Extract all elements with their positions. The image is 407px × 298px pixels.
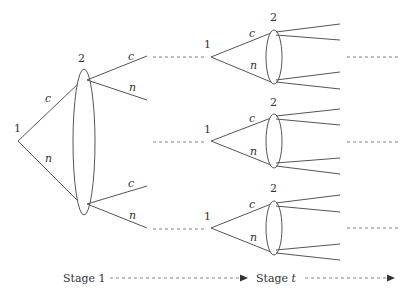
svg-text:2: 2 (270, 96, 277, 109)
timeline: Stage 1 Stage t (63, 272, 395, 285)
svg-text:2: 2 (270, 182, 277, 195)
svg-text:n: n (250, 231, 257, 244)
action-n-label: n (129, 209, 136, 222)
svg-text:c: c (249, 198, 255, 211)
action-n-label: n (45, 152, 52, 165)
action-c-label: c (45, 92, 51, 105)
stage-t-subtree-2: 1 2 c n (204, 96, 400, 174)
action-c-label: c (128, 50, 134, 63)
svg-text:c: c (249, 27, 255, 40)
stage-1-label: Stage 1 (63, 272, 106, 285)
player1-label: 1 (14, 122, 21, 135)
svg-text:1: 1 (204, 123, 211, 136)
svg-text:1: 1 (204, 210, 211, 223)
game-tree-diagram: 1 2 c n c n c n 1 2 c n 1 2 c (0, 0, 407, 298)
svg-text:n: n (250, 59, 257, 72)
stage-t-subtree-3: 1 2 c n (204, 182, 400, 260)
stage-t-subtree-1: 1 2 c n (204, 11, 400, 89)
svg-text:1: 1 (204, 38, 211, 51)
svg-text:n: n (250, 145, 257, 158)
arrow-icon (387, 275, 395, 282)
action-n-label: n (129, 81, 136, 94)
svg-text:c: c (249, 112, 255, 125)
action-c-label: c (128, 177, 134, 190)
svg-text:2: 2 (270, 11, 277, 24)
player2-label: 2 (78, 52, 85, 65)
stage-t-label: Stage t (256, 272, 297, 285)
arrow-icon (240, 275, 248, 282)
stage1-tree: 1 2 c n c n c n (14, 50, 147, 228)
info-set-ellipse (73, 69, 95, 215)
